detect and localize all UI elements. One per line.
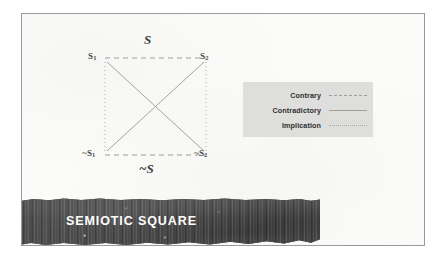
figure-page: S ~S S1 S2 ~S1 ~S2 Contrary Contradictor… [0, 0, 447, 267]
legend-label-contradictory: Contradictory [243, 107, 321, 114]
legend-sample-dashed-line [329, 95, 367, 97]
vertex-label-s1: S1 [88, 51, 97, 61]
banner-title: SEMIOTIC SQUARE [66, 214, 197, 228]
legend-item-contradictory: Contradictory [243, 104, 373, 118]
banner: SEMIOTIC SQUARE [22, 198, 320, 245]
vertex-s2-subscript: 2 [205, 54, 208, 61]
legend-sample-dotted-line [329, 125, 367, 127]
legend-item-implication: Implication [243, 119, 373, 133]
legend-label-implication: Implication [243, 122, 321, 129]
vertex-label-not-s1: ~S1 [82, 148, 96, 158]
semiotic-square-diagram: S ~S S1 S2 ~S1 ~S2 [78, 30, 238, 180]
legend-box: Contrary Contradictory Implication [243, 82, 373, 137]
legend-item-contrary: Contrary [243, 89, 373, 103]
axis-label-top: S [144, 32, 151, 48]
vertex-label-s2: S2 [200, 51, 209, 61]
legend-label-contrary: Contrary [243, 92, 321, 99]
vertex-s1-subscript: 1 [93, 54, 96, 61]
vertex-not-s2-subscript: 2 [204, 151, 207, 158]
axis-label-bottom: ~S [139, 161, 154, 177]
legend-sample-solid-line [329, 110, 367, 112]
square-edges-svg [78, 30, 238, 180]
vertex-not-s1-subscript: 1 [92, 151, 95, 158]
vertex-label-not-s2: ~S2 [194, 148, 208, 158]
